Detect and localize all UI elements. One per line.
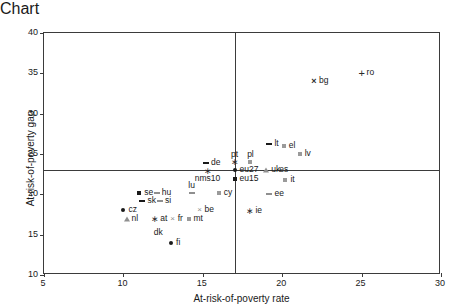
point-marker-it bbox=[283, 178, 287, 182]
point-label-lv: lv bbox=[305, 149, 311, 158]
x-tick-label: 30 bbox=[435, 278, 445, 288]
y-tick-label: 10 bbox=[28, 269, 38, 279]
point-label-fi: fi bbox=[176, 238, 180, 247]
point-marker-cy bbox=[217, 191, 221, 195]
x-tick bbox=[441, 273, 442, 277]
y-tick bbox=[40, 235, 44, 236]
point-marker-bg: × bbox=[311, 76, 316, 85]
y-tick bbox=[40, 154, 44, 155]
point-label-at: at bbox=[160, 214, 167, 223]
point-marker-ie: ∗ bbox=[246, 207, 254, 216]
point-label-nms10: nms10 bbox=[195, 174, 221, 183]
point-label-pl: pl bbox=[247, 150, 254, 159]
y-tick-label: 25 bbox=[28, 148, 38, 158]
point-label-eu15: eu15 bbox=[240, 174, 259, 183]
point-marker-eu27 bbox=[233, 168, 237, 172]
x-tick bbox=[123, 273, 124, 277]
point-label-el: el bbox=[289, 141, 296, 150]
x-tick-label: 20 bbox=[276, 278, 286, 288]
point-marker-eu15 bbox=[233, 177, 237, 181]
point-label-fr: fr bbox=[178, 214, 183, 223]
point-label-sk: sk bbox=[147, 196, 156, 205]
point-marker-si bbox=[157, 200, 163, 202]
point-marker-lu bbox=[189, 192, 195, 194]
x-tick bbox=[203, 273, 204, 277]
point-marker-se bbox=[137, 191, 141, 195]
point-label-ee: ee bbox=[274, 189, 283, 198]
y-tick-label: 30 bbox=[28, 108, 38, 118]
point-label-cy: cy bbox=[224, 188, 233, 197]
x-tick-label: 15 bbox=[197, 278, 207, 288]
y-tick bbox=[40, 194, 44, 195]
x-tick-label: 25 bbox=[356, 278, 366, 288]
point-marker-at: ∗ bbox=[151, 214, 159, 223]
point-label-bg: bg bbox=[319, 76, 328, 85]
point-label-de: de bbox=[211, 158, 220, 167]
y-axis-label: At-risk-of-poverty gap bbox=[25, 79, 36, 239]
point-label-be: be bbox=[205, 205, 214, 214]
point-marker-cz bbox=[121, 208, 125, 212]
point-marker-sk bbox=[139, 200, 145, 202]
y-tick-label: 15 bbox=[28, 229, 38, 239]
y-tick bbox=[40, 275, 44, 276]
scatter-chart: cznlseskhusi∗atdk×frfimtlu×bede∗nms10cy∗… bbox=[0, 18, 463, 308]
y-tick-label: 20 bbox=[28, 188, 38, 198]
point-marker-hu bbox=[154, 192, 160, 194]
x-tick bbox=[44, 273, 45, 277]
point-marker-ro: + bbox=[358, 68, 364, 79]
point-marker-el bbox=[282, 144, 286, 148]
point-marker-be: × bbox=[197, 206, 202, 214]
point-label-si: si bbox=[165, 196, 171, 205]
point-label-es: es bbox=[279, 165, 288, 174]
y-tick-label: 40 bbox=[28, 27, 38, 37]
plot-area: cznlseskhusi∗atdk×frfimtlu×bede∗nms10cy∗… bbox=[43, 32, 440, 274]
point-marker-de bbox=[203, 162, 209, 164]
point-label-pt: pt bbox=[231, 150, 238, 159]
point-label-ro: ro bbox=[367, 68, 375, 77]
point-marker-lv bbox=[298, 152, 302, 156]
y-tick bbox=[40, 114, 44, 115]
point-label-nl: nl bbox=[132, 214, 139, 223]
point-label-lt: lt bbox=[274, 139, 278, 148]
x-axis-label: At-risk-of-poverty rate bbox=[43, 293, 440, 304]
point-marker-fi bbox=[169, 241, 173, 245]
point-label-ie: ie bbox=[255, 206, 262, 215]
y-tick bbox=[40, 73, 44, 74]
point-label-it: it bbox=[290, 175, 294, 184]
point-marker-ee bbox=[266, 193, 272, 195]
point-marker-pl bbox=[248, 160, 252, 164]
point-marker-lt bbox=[266, 143, 272, 145]
point-label-dk: dk bbox=[154, 228, 163, 237]
x-tick-label: 5 bbox=[40, 278, 45, 288]
point-marker-fr: × bbox=[170, 215, 175, 223]
y-tick bbox=[40, 33, 44, 34]
x-tick bbox=[282, 273, 283, 277]
x-tick bbox=[362, 273, 363, 277]
point-label-mt: mt bbox=[194, 214, 203, 223]
y-tick-label: 35 bbox=[28, 67, 38, 77]
point-marker-nl bbox=[124, 216, 130, 221]
x-tick-label: 10 bbox=[117, 278, 127, 288]
point-marker-mt bbox=[187, 217, 191, 221]
point-marker-uk bbox=[263, 168, 269, 173]
